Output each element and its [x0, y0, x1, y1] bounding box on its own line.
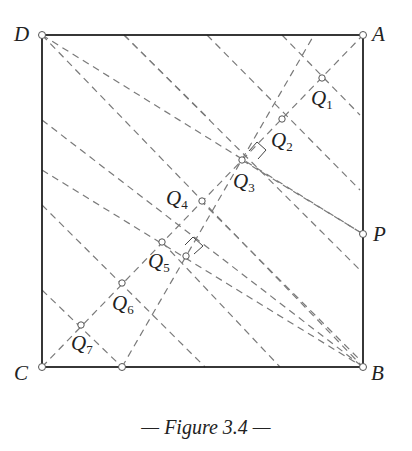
label-q5: Q5	[148, 251, 170, 274]
figure-diagram	[0, 0, 412, 451]
label-c: C	[14, 363, 28, 384]
label-q6: Q6	[112, 293, 134, 316]
label-q7: Q7	[71, 333, 93, 356]
label-q3: Q3	[233, 171, 255, 194]
figure-caption: — Figure 3.4 —	[0, 416, 412, 439]
label-q2: Q2	[271, 130, 293, 153]
label-d: D	[14, 24, 29, 45]
label-p: P	[373, 224, 386, 245]
label-q1: Q1	[311, 88, 333, 111]
label-a: A	[372, 24, 385, 45]
label-b: B	[371, 363, 384, 384]
label-q4: Q4	[166, 188, 188, 211]
